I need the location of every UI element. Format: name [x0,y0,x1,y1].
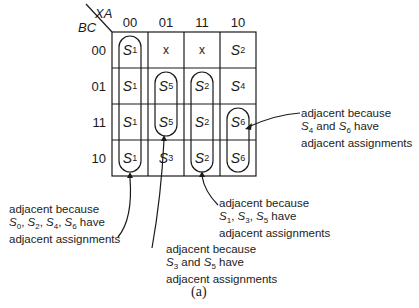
annotation-s1-s3-s5: adjacent because S1, S3, S5 have adjacen… [219,197,330,240]
annotation-line: adjacent assignments [166,273,277,286]
arrow-s35 [152,140,164,248]
annotation-s4-s6: adjacent because S4 and S6 have adjacent… [301,107,412,150]
text: and [313,120,339,132]
annotation-line: adjacent assignments [219,227,330,240]
state-symbol: S [256,210,264,222]
annotation-s0-s2-s4-s6: adjacent because S0, S2, S4, S6 have adj… [9,203,120,246]
annotation-s3-s5: adjacent because S3 and S5 have adjacent… [166,243,277,286]
text: have [268,210,296,222]
annotation-line: adjacent assignments [301,137,412,150]
text: have [77,216,105,228]
annotation-line: S4 and S6 have [301,120,412,137]
state-symbol: S [219,210,227,222]
annotation-line: S0, S2, S4, S6 have [9,216,120,233]
annotation-line: adjacent because [301,107,412,120]
text: have [351,120,379,132]
annotation-line: adjacent assignments [9,233,120,246]
text: and [178,256,204,268]
state-symbol: S [301,120,309,132]
figure-caption: (a) [191,284,207,300]
annotation-line: adjacent because [166,243,277,256]
annotation-line: S3 and S5 have [166,256,277,273]
state-symbol: S [9,216,17,228]
text: have [216,256,244,268]
annotation-line: adjacent because [9,203,120,216]
arrow-s135 [202,176,218,205]
annotation-line: S1, S3, S5 have [219,210,330,227]
group-loop-s2 [191,72,213,172]
annotation-line: adjacent because [219,197,330,210]
corner-diagonal [86,4,112,32]
state-symbol: S [46,216,54,228]
state-symbol: S [166,256,174,268]
